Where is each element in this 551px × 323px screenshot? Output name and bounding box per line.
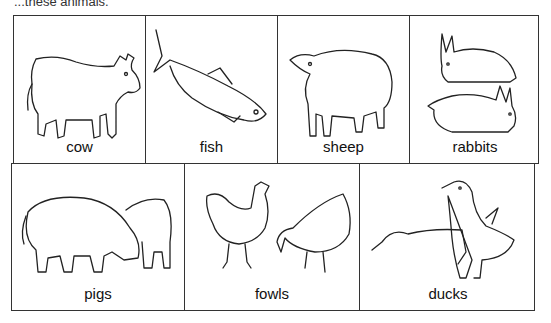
cell-label: ducks [360,285,536,302]
cell-label: fish [146,138,277,155]
cow-icon [16,34,144,144]
ducks-icon [362,168,534,280]
cell-label: rabbits [410,138,540,155]
cell-label: cow [14,138,145,155]
cell-label: sheep [278,138,409,155]
animal-grid-row-1: cow fish sheep rabbits [13,15,539,164]
cell-sheep: sheep [278,16,410,163]
pigs-icon [14,172,184,282]
cell-ducks: ducks [360,164,536,310]
fowls-icon [189,172,359,284]
cell-rabbits: rabbits [410,16,540,163]
cell-pigs: pigs [12,164,185,310]
rabbits-icon [412,22,538,137]
instruction-text: ...these animals. [14,0,109,9]
cell-fish: fish [146,16,278,163]
cell-label: fowls [185,285,359,302]
animal-grid-row-2: pigs fowls ducks [11,163,535,311]
sheep-icon [280,32,408,142]
cell-cow: cow [14,16,146,163]
cell-fowls: fowls [185,164,360,310]
fish-icon [148,26,276,136]
cell-label: pigs [12,285,184,302]
